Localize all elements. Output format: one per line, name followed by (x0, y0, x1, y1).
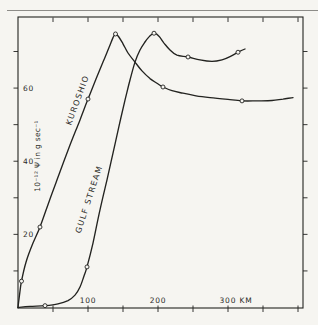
gulf-stream-curve (18, 33, 245, 307)
x-axis-label-100: 100 (80, 296, 97, 305)
figure-scan: 100200300 KM20406010⁻¹² Ψ in g sec⁻¹KURO… (0, 0, 318, 325)
scan-edge-line (7, 10, 318, 11)
y-axis-label-60: 60 (23, 84, 34, 93)
kuroshio-curve (18, 34, 293, 308)
gulf-stream-label: GULF STREAM (74, 164, 104, 234)
data-point-marker (43, 304, 47, 308)
y-axis-title: 10⁻¹² Ψ in g sec⁻¹ (33, 120, 42, 192)
data-point-marker (236, 50, 240, 54)
x-axis-label-200: 200 (150, 296, 167, 305)
data-point-marker (240, 99, 244, 103)
data-point-marker (186, 55, 190, 59)
y-axis-label-20: 20 (23, 230, 34, 239)
data-point-marker (114, 32, 118, 36)
transport-chart: 100200300 KM20406010⁻¹² Ψ in g sec⁻¹KURO… (0, 0, 318, 325)
data-point-marker (20, 279, 24, 283)
data-point-marker (152, 31, 156, 35)
data-point-marker (85, 265, 89, 269)
x-axis-label-300: 300 KM (220, 296, 253, 305)
data-point-marker (86, 97, 90, 101)
data-point-marker (38, 225, 42, 229)
data-point-marker (161, 85, 165, 89)
axes-box (18, 17, 303, 308)
